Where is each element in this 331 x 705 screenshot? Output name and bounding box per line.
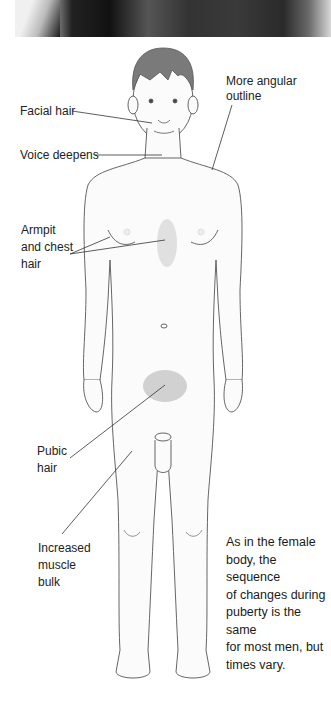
label-angular-outline: More angular outline [226,74,297,104]
label-muscle-bulk: Increased muscle bulk [38,540,91,591]
chest-hair [157,219,177,267]
label-pubic-hair: Pubic hair [37,443,67,477]
label-voice-deepens: Voice deepens [20,148,99,163]
label-armpit-chest-hair: Armpit and chest hair [21,222,73,273]
label-facial-hair: Facial hair [20,104,75,119]
caption-text: As in the female body, the sequence of c… [226,534,331,674]
